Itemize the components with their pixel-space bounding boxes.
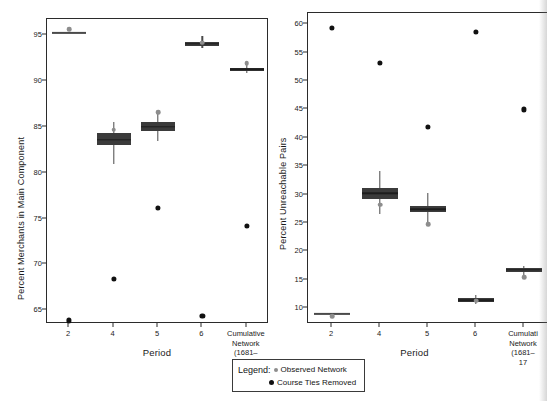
legend-title: Legend:: [238, 365, 271, 375]
observed-point: [156, 110, 161, 115]
boxplot-median: [230, 69, 264, 70]
observed-point: [200, 41, 205, 46]
x-tick-mark: [331, 323, 332, 327]
x-tick-mark: [68, 323, 69, 327]
x-tick-mark: [523, 323, 524, 327]
boxplot-median: [410, 209, 446, 210]
removed-point: [377, 60, 382, 65]
boxplot-median: [506, 269, 542, 270]
y-tick-label: 80: [33, 167, 42, 176]
y-tick-label: 25: [294, 217, 303, 226]
boxplot-median: [362, 193, 398, 194]
boxplot-flat-line: [52, 32, 86, 34]
observed-dot-icon: [274, 368, 278, 372]
y-axis-ticklabels-right: 1015202530354045505560: [281, 12, 303, 323]
x-tick-label: 5: [155, 329, 159, 339]
y-tick-label: 65: [33, 305, 42, 314]
removed-point: [425, 124, 430, 129]
legend-row-removed: Course Ties Removed: [238, 376, 359, 389]
x-tick-mark: [427, 323, 428, 327]
plot-area-left: [46, 18, 268, 323]
boxplot-series-left: [47, 19, 267, 322]
legend-row-observed: Legend: Observed Network: [238, 363, 359, 376]
plot-area-right: [307, 12, 547, 323]
y-tick-label: 55: [294, 47, 303, 56]
removed-point: [200, 313, 205, 318]
legend: Legend: Observed Network Course Ties Rem…: [232, 359, 365, 392]
x-tick-mark: [201, 323, 202, 327]
x-tick-label: 5: [425, 329, 429, 339]
observed-point: [330, 314, 335, 319]
y-tick-label: 20: [294, 246, 303, 255]
observed-point: [378, 203, 383, 208]
legend-label-removed: Course Ties Removed: [277, 378, 356, 387]
x-tick-label: 2: [329, 329, 333, 339]
x-tick-mark: [157, 323, 158, 327]
x-tick-label: 6: [473, 329, 477, 339]
y-tick-label: 35: [294, 161, 303, 170]
y-tick-label: 30: [294, 189, 303, 198]
removed-point: [111, 277, 116, 282]
x-tick-label: 2: [66, 329, 70, 339]
x-tick-mark: [475, 323, 476, 327]
y-tick-label: 70: [33, 259, 42, 268]
observed-point: [67, 27, 72, 32]
observed-point: [426, 222, 431, 227]
removed-point: [244, 223, 249, 228]
removed-point: [473, 29, 478, 34]
y-tick-label: 10: [294, 303, 303, 312]
observed-point: [474, 298, 479, 303]
chart-panel-left: Percent Merchants in Main Component 6570…: [0, 0, 280, 401]
boxplot-median: [97, 139, 131, 140]
x-axis-title-left: Period: [46, 347, 268, 358]
y-tick-label: 40: [294, 132, 303, 141]
x-tick-label: 6: [199, 329, 203, 339]
y-axis-ticklabels-left: 65707580859095: [20, 18, 42, 323]
x-axis-title-right: Period: [307, 347, 522, 358]
x-tick-mark: [379, 323, 380, 327]
observed-point: [522, 275, 527, 280]
boxplot-series-right: [308, 13, 547, 322]
removed-point: [521, 107, 526, 112]
x-tick-label: 4: [111, 329, 115, 339]
removed-point: [155, 205, 160, 210]
removed-point: [329, 25, 334, 30]
legend-label-observed: Observed Network: [281, 365, 347, 374]
y-tick-label: 50: [294, 76, 303, 85]
y-tick-label: 95: [33, 30, 42, 39]
removed-dot-icon: [269, 380, 274, 385]
y-tick-label: 75: [33, 213, 42, 222]
y-tick-label: 45: [294, 104, 303, 113]
y-tick-label: 15: [294, 274, 303, 283]
boxplot-median: [141, 126, 175, 127]
observed-point: [111, 128, 116, 133]
y-tick-label: 90: [33, 76, 42, 85]
observed-point: [245, 61, 250, 66]
y-tick-label: 85: [33, 122, 42, 131]
x-tick-label: 4: [377, 329, 381, 339]
x-tick-mark: [245, 323, 246, 327]
chart-panel-right: Percent Unreachable Pairs 10152025303540…: [272, 0, 547, 401]
x-tick-mark: [112, 323, 113, 327]
y-tick-label: 60: [294, 19, 303, 28]
